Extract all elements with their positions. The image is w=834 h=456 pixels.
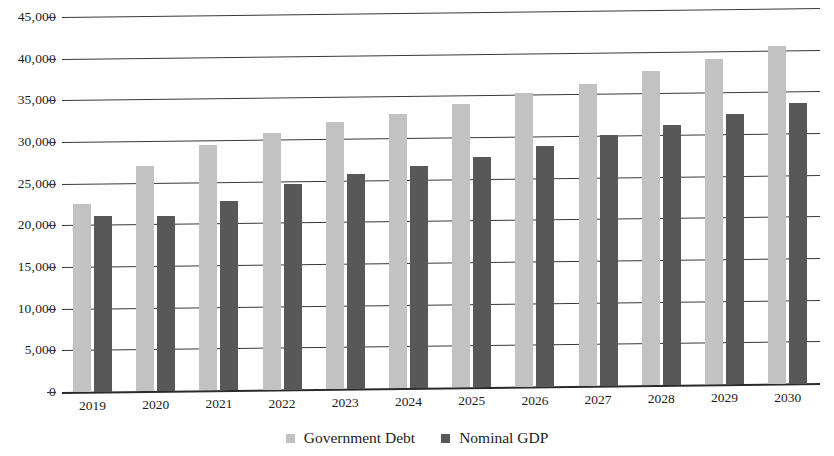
y-axis-tick-mark (47, 267, 56, 268)
x-axis-tick-label: 2027 (568, 392, 628, 408)
bar-government-debt (515, 93, 533, 386)
bar-government-debt (579, 84, 597, 386)
y-axis-tick-mark (47, 17, 56, 18)
bar-group (136, 17, 176, 391)
bar-nominal-gdp (473, 157, 491, 388)
bar-chart: 05,00010,00015,00020,00025,00030,00035,0… (0, 0, 834, 456)
bar-nominal-gdp (663, 125, 681, 385)
bar-government-debt (389, 114, 407, 388)
bar-group (199, 17, 239, 390)
y-axis-labels: 05,00010,00015,00020,00025,00030,00035,0… (0, 0, 56, 456)
bar-group (579, 17, 619, 386)
y-axis-tick-mark (47, 350, 56, 351)
bar-group (515, 17, 555, 387)
x-axis-tick-label: 2026 (505, 393, 565, 409)
legend-label: Nominal GDP (459, 430, 548, 446)
bar-government-debt (705, 59, 723, 384)
bar-nominal-gdp (284, 184, 302, 390)
x-axis-tick-label: 2020 (126, 397, 186, 413)
bar-government-debt (642, 71, 660, 385)
bar-nominal-gdp (347, 174, 365, 389)
bar-group (389, 17, 429, 388)
plot-area (62, 17, 820, 392)
bar-nominal-gdp (600, 135, 618, 386)
y-axis-tick-mark (47, 309, 56, 310)
bar-nominal-gdp (726, 114, 744, 385)
bar-group (642, 17, 682, 385)
bar-government-debt (73, 204, 91, 392)
bar-group (705, 17, 745, 384)
y-axis-tick-mark (47, 100, 56, 101)
x-axis-tick-label: 2028 (631, 391, 691, 407)
bar-nominal-gdp (789, 103, 807, 384)
legend-swatch-icon (441, 434, 450, 443)
chart-legend: Government DebtNominal GDP (0, 425, 834, 451)
bar-group (263, 17, 303, 390)
y-axis-tick-mark (47, 225, 56, 226)
y-axis-tick-mark (47, 392, 56, 393)
bars-layer (62, 17, 820, 392)
legend-item[interactable]: Government Debt (286, 430, 415, 446)
bar-group (73, 17, 113, 392)
bar-government-debt (199, 145, 217, 390)
legend-item[interactable]: Nominal GDP (441, 430, 548, 446)
bar-nominal-gdp (157, 216, 175, 391)
x-axis-tick-label: 2022 (252, 396, 312, 412)
x-axis-tick-label: 2023 (315, 395, 375, 411)
bar-government-debt (136, 166, 154, 391)
bar-group (326, 17, 366, 389)
x-axis-tick-label: 2030 (758, 390, 818, 406)
y-axis-tick-mark (47, 184, 56, 185)
x-axis-tick-label: 2024 (379, 394, 439, 410)
y-axis-tick-mark (47, 59, 56, 60)
bar-government-debt (263, 133, 281, 390)
bar-government-debt (326, 122, 344, 389)
x-axis-tick-label: 2019 (63, 398, 123, 414)
legend-swatch-icon (286, 434, 295, 443)
y-axis-tick-mark (47, 142, 56, 143)
bar-group (768, 17, 808, 384)
bar-nominal-gdp (410, 166, 428, 389)
legend-label: Government Debt (304, 430, 415, 446)
x-axis-tick-label: 2025 (442, 393, 502, 409)
bar-group (452, 17, 492, 387)
bar-government-debt (768, 46, 786, 384)
x-axis-labels: 2019202020212022202320242025202620272028… (62, 396, 820, 420)
bar-nominal-gdp (220, 201, 238, 390)
x-axis-tick-label: 2021 (189, 396, 249, 412)
bar-government-debt (452, 104, 470, 387)
x-axis-tick-label: 2029 (695, 390, 755, 406)
bar-nominal-gdp (536, 146, 554, 387)
bar-nominal-gdp (94, 216, 112, 392)
